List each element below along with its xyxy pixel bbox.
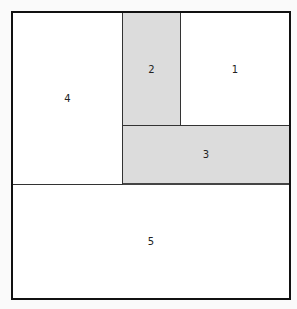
region-1: 1 — [181, 13, 289, 126]
region-5: 5 — [13, 185, 289, 298]
region-3: 3 — [123, 126, 289, 185]
region-label: 5 — [148, 236, 154, 247]
region-label: 3 — [203, 149, 209, 160]
region-4: 4 — [13, 13, 123, 185]
region-2: 2 — [123, 13, 181, 126]
diagram-frame: 4 2 1 3 5 — [11, 11, 291, 300]
region-label: 2 — [148, 64, 154, 75]
region-label: 1 — [232, 64, 238, 75]
region-label: 4 — [64, 93, 70, 104]
